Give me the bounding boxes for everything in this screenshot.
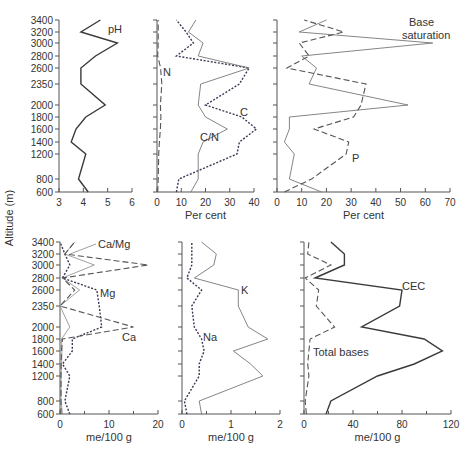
- series-na: [184, 242, 204, 414]
- y-tick-label: 600: [36, 187, 53, 198]
- series-labels: pHNCC/NBasesaturationPCa/MgMgCaKNaCECTot…: [70, 16, 450, 358]
- y-tick-label: 1200: [31, 149, 54, 160]
- y-tick-label: 3000: [32, 260, 55, 271]
- label-k: K: [241, 284, 249, 296]
- label-cn: C/N: [200, 131, 219, 143]
- label-base-saturation-2: saturation: [402, 29, 450, 41]
- x-tick-label: 10: [176, 197, 188, 208]
- x-tick-label: 2: [277, 419, 283, 430]
- x-tick-label: 40: [347, 419, 359, 430]
- label-mg: Mg: [100, 287, 115, 299]
- y-tick-label: 800: [37, 396, 54, 407]
- x-tick-label: 20: [152, 419, 164, 430]
- x-tick-label: 0: [154, 197, 160, 208]
- x-axis-title: Per cent: [185, 209, 226, 221]
- x-tick-label: 40: [248, 197, 260, 208]
- y-tick-label: 1600: [31, 124, 54, 135]
- panel-bottom-middle: 012me/100 g: [178, 242, 283, 443]
- x-tick-label: 0: [179, 419, 185, 430]
- x-axis-title: Per cent: [343, 209, 384, 221]
- x-tick-label: 10: [103, 419, 115, 430]
- x-tick-label: 30: [346, 197, 358, 208]
- series-k: [194, 242, 267, 414]
- label-p: P: [352, 152, 359, 164]
- series-ca: [60, 242, 148, 414]
- x-tick-label: 0: [57, 419, 63, 430]
- x-tick-label: 1: [228, 419, 234, 430]
- series-mg: [60, 242, 102, 414]
- y-tick-label: 3400: [32, 237, 55, 248]
- y-tick-label: 1200: [32, 371, 55, 382]
- label-base-saturation: Base: [409, 16, 434, 28]
- y-tick-label: 2350: [32, 301, 55, 312]
- y-tick-label: 1800: [31, 112, 54, 123]
- series-total-bases: [305, 242, 334, 414]
- label-ca: Ca: [122, 331, 137, 343]
- x-tick-label: 6: [129, 197, 135, 208]
- series-p: [284, 20, 366, 192]
- series-base-saturation: [284, 20, 432, 192]
- x-tick-label: 3: [56, 197, 62, 208]
- x-axis-title: me/100 g: [355, 431, 401, 443]
- y-tick-label: 1400: [32, 359, 55, 370]
- x-tick-label: 60: [420, 197, 432, 208]
- y-tick-label: 800: [36, 174, 53, 185]
- x-tick-label: 10: [296, 197, 308, 208]
- panel-bottom-left: 6008001200140016001800200023502600280030…: [32, 237, 164, 444]
- label-n: N: [163, 66, 171, 78]
- y-tick-label: 2000: [31, 100, 54, 111]
- y-tick-label: 1400: [31, 137, 54, 148]
- label-c: C: [240, 106, 248, 118]
- x-tick-label: 40: [370, 197, 382, 208]
- y-tick-label: 2800: [32, 273, 55, 284]
- label-ph: pH: [108, 23, 122, 35]
- series-ph: [71, 20, 117, 192]
- label-total-bases: Total bases: [313, 346, 369, 358]
- soil-profile-figure: 6008001200140016001800200023502600280030…: [0, 0, 469, 450]
- y-tick-label: 2350: [31, 79, 54, 90]
- label-cec: CEC: [402, 280, 425, 292]
- panel-top-left: 6008001200140016001800200023502600280030…: [31, 15, 135, 209]
- x-tick-label: 20: [200, 197, 212, 208]
- y-tick-label: 2600: [32, 285, 55, 296]
- label-na: Na: [203, 331, 218, 343]
- y-tick-label: 3200: [31, 27, 54, 38]
- label-leader-ca-mg: [70, 244, 96, 254]
- y-tick-label: 2000: [32, 322, 55, 333]
- y-tick-label: 2800: [31, 51, 54, 62]
- y-tick-label: 2600: [31, 63, 54, 74]
- x-tick-label: 120: [443, 419, 460, 430]
- y-tick-label: 3000: [31, 38, 54, 49]
- x-tick-label: 0: [301, 419, 307, 430]
- label-ca-mg: Ca/Mg: [98, 238, 130, 250]
- x-tick-label: 50: [395, 197, 407, 208]
- x-axis-title: me/100 g: [208, 431, 254, 443]
- panel-bottom-right: 04080120me/100 g: [300, 242, 460, 443]
- y-tick-label: 600: [37, 409, 54, 420]
- y-tick-label: 3400: [31, 15, 54, 26]
- x-tick-label: 80: [396, 419, 408, 430]
- x-tick-label: 0: [274, 197, 280, 208]
- x-tick-label: 30: [224, 197, 236, 208]
- series-n: [158, 20, 162, 192]
- x-tick-label: 4: [81, 197, 87, 208]
- panel-top-middle: 010203040Per cent: [153, 20, 260, 221]
- y-tick-label: 1800: [32, 334, 55, 345]
- series-cec: [315, 242, 442, 414]
- y-tick-label: 1600: [32, 346, 55, 357]
- x-tick-label: 20: [321, 197, 333, 208]
- panel-top-right: 010203040506070Per cent: [273, 20, 456, 221]
- x-tick-label: 70: [444, 197, 456, 208]
- x-tick-label: 5: [105, 197, 111, 208]
- x-axis-title: me/100 g: [86, 431, 132, 443]
- series-ca-mg: [60, 242, 94, 414]
- y-axis-title: Altitude (m): [3, 190, 15, 246]
- y-tick-label: 3200: [32, 249, 55, 260]
